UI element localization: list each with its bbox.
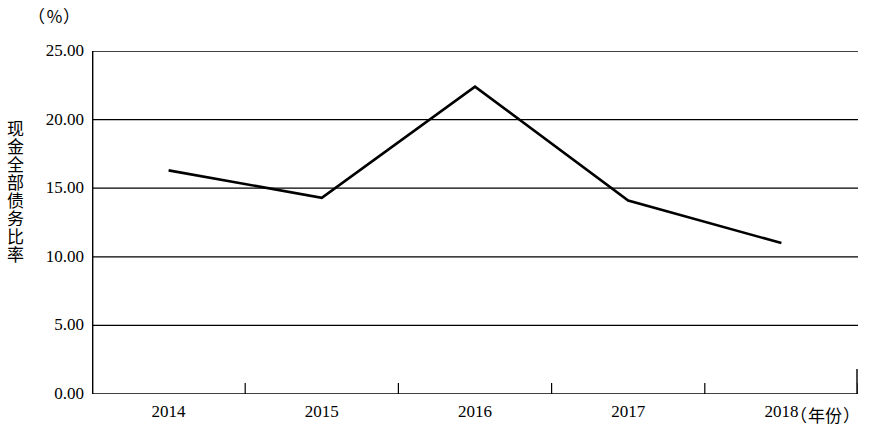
y-axis-tick-label: 0.00 xyxy=(0,384,84,404)
y-axis-tick-label: 20.00 xyxy=(0,110,84,130)
x-axis-ticks-group xyxy=(245,383,858,394)
gridlines-group xyxy=(92,51,858,394)
x-axis-title: （年份） xyxy=(790,402,860,427)
y-axis-unit-label: （％） xyxy=(28,3,81,28)
x-axis-tick-label: 2015 xyxy=(305,402,339,422)
y-axis-tick-label: 5.00 xyxy=(0,315,84,335)
y-axis-tick-label: 15.00 xyxy=(0,178,84,198)
x-axis-tick-label: 2016 xyxy=(458,402,492,422)
y-axis-tick-label: 25.00 xyxy=(0,41,84,61)
chart-figure: （％） 现金全部债务比率 0.005.0010.0015.0020.0025.0… xyxy=(0,0,874,431)
y-axis-tick-label: 10.00 xyxy=(0,247,84,267)
data-series-line xyxy=(169,87,782,243)
line-chart-svg xyxy=(92,51,858,394)
x-axis-tick-label: 2014 xyxy=(152,402,186,422)
plot-area xyxy=(92,51,858,394)
x-axis-tick-label: 2017 xyxy=(611,402,645,422)
